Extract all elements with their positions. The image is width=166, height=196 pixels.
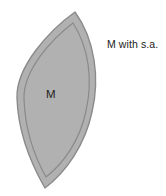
lens-shape-graphic: [0, 0, 166, 196]
shape-inner-label: M: [46, 89, 56, 101]
shape-annotation-label: M with s.a.: [107, 39, 158, 50]
figure-canvas: M M with s.a.: [0, 0, 166, 196]
